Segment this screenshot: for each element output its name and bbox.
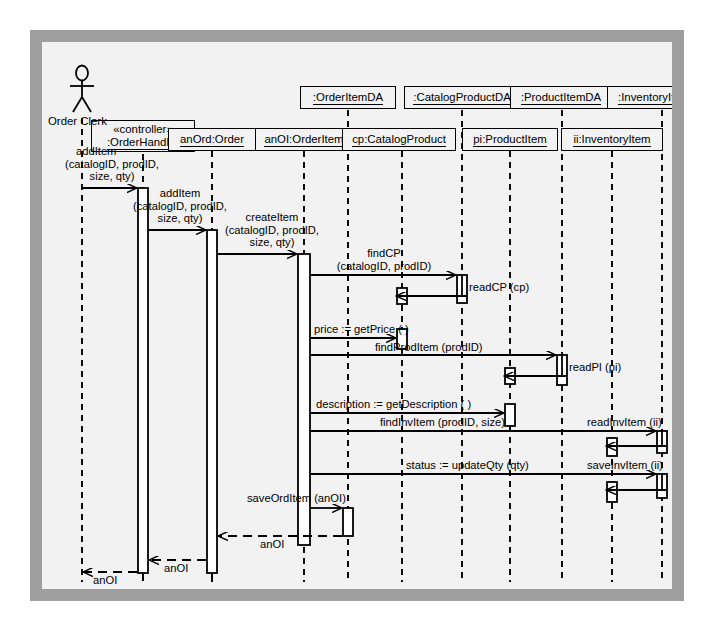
object-label-anOrdOrder: anOrd:Order	[180, 133, 244, 147]
message-label-saveInvItem: saveInvItem (ii)	[587, 459, 663, 472]
message-line: (catalogID, prodID,	[210, 224, 334, 237]
return-label-anOI-1: anOI	[260, 538, 284, 551]
object-box-anOrdOrder[interactable]: anOrd:Order	[168, 128, 256, 151]
activation-ii-saveInvItem	[607, 482, 617, 502]
object-stereotype-orderHandler: «controller»	[113, 123, 173, 136]
object-label-piProductItem: pi:ProductItem	[473, 133, 546, 147]
object-label-iiInventoryItem: ii:InventoryItem	[573, 133, 650, 147]
message-label-readPI: readPI (pi)	[569, 361, 621, 374]
message-label-findInvItem: findInvItem (prodID, size)	[380, 416, 505, 429]
call-arrow-joints	[304, 275, 662, 508]
message-line: (catalogID, prodID)	[314, 260, 454, 273]
stick-figure-actor-icon	[70, 66, 94, 113]
message-line: addItem	[52, 145, 172, 158]
object-box-orderItemDA[interactable]: :OrderItemDA	[300, 86, 396, 109]
object-label-orderItemDA: :OrderItemDA	[313, 91, 383, 105]
message-line: (catalogID, prodID,	[52, 158, 172, 171]
activation-orderItemDA-saveOrdItem	[343, 508, 353, 536]
activation-orderHandler	[138, 188, 148, 573]
message-label-createItem: createItem (catalogID, prodID, size, qty…	[210, 211, 334, 249]
message-label-getDescription: description := getDescription ( )	[316, 398, 471, 411]
object-box-piProductItem[interactable]: pi:ProductItem	[462, 128, 558, 151]
message-label-findProdItem: findProdItem (prodID)	[375, 341, 483, 354]
object-label-productItemDA: :ProductItemDA	[521, 91, 601, 105]
activation-pi-getDescription	[505, 404, 515, 426]
message-label-findCP: findCP (catalogID, prodID)	[314, 247, 454, 272]
object-label-cpCatalogProduct: cp:CatalogProduct	[352, 133, 446, 147]
return-label-anOI-3: anOI	[93, 574, 117, 587]
object-label-inventoryItemDA: :InventoryItemDA	[618, 91, 672, 105]
diagram-frame: «controller» :OrderHandler anOrd:Order a…	[30, 30, 684, 601]
actor-label: Order Clerk	[48, 115, 107, 127]
object-box-catalogProductDA[interactable]: :CatalogProductDA	[404, 86, 520, 109]
screenshot-root: «controller» :OrderHandler anOrd:Order a…	[0, 0, 711, 623]
message-line: createItem	[210, 211, 334, 224]
message-label-saveOrdItem: saveOrdItem (anOI)	[247, 492, 346, 505]
object-box-anOiOrderItem[interactable]: anOI:OrderItem	[255, 128, 353, 151]
object-label-anOiOrderItem: anOI:OrderItem	[264, 133, 343, 147]
activation-anOrdOrder	[207, 230, 217, 573]
message-label-readInvItem: readInvItem (ii)	[587, 416, 662, 429]
object-box-productItemDA[interactable]: :ProductItemDA	[510, 86, 612, 109]
activation-ii-readInvItem	[607, 438, 617, 456]
object-label-catalogProductDA: :CatalogProductDA	[413, 91, 511, 105]
object-box-iiInventoryItem[interactable]: ii:InventoryItem	[561, 128, 663, 151]
message-line: findCP	[314, 247, 454, 260]
object-box-cpCatalogProduct[interactable]: cp:CatalogProduct	[342, 128, 456, 151]
message-label-readCP: readCP (cp)	[469, 281, 529, 294]
message-line: addItem	[118, 187, 242, 200]
message-label-updateQty: status := updateQty (qty)	[406, 459, 529, 472]
message-line: size, qty)	[52, 170, 172, 183]
message-label-addItem-1: addItem (catalogID, prodID, size, qty)	[52, 145, 172, 183]
diagram-canvas: «controller» :OrderHandler anOrd:Order a…	[42, 42, 672, 589]
message-label-getPrice: price := getPrice ( )	[314, 323, 409, 336]
return-label-anOI-2: anOI	[164, 562, 188, 575]
object-box-inventoryItemDA[interactable]: :InventoryItemDA	[607, 86, 672, 109]
